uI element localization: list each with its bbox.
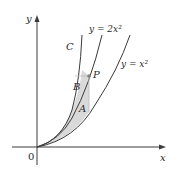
curve-y-x2-label: y = x² <box>120 59 148 69</box>
y-axis-label: y <box>25 13 32 24</box>
origin-label: 0 <box>28 151 34 162</box>
x-axis-label: x <box>160 152 166 163</box>
diagram-canvas: y x 0 C y = 2x² y = x² P B A <box>0 0 178 174</box>
x-axis-arrow-icon <box>159 145 166 150</box>
point-p <box>87 74 91 78</box>
y-axis-arrow-icon <box>35 15 40 22</box>
region-a-label: A <box>78 103 86 114</box>
point-p-label: P <box>92 69 100 80</box>
region-b-label: B <box>72 81 80 92</box>
curve-y-2x2-label: y = 2x² <box>88 24 122 34</box>
curve-c-label: C <box>66 41 74 52</box>
